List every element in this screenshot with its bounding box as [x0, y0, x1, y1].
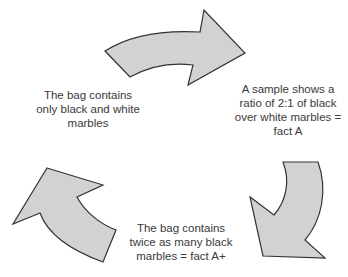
- node-bottom-line-2: twice as many black: [126, 235, 236, 249]
- node-right-line-2: ratio of 2:1 of black: [228, 96, 348, 110]
- top-arrow-icon: [105, 10, 245, 85]
- node-right-line-1: A sample shows a: [228, 82, 348, 96]
- right-arrow-icon: [250, 162, 325, 258]
- node-left-line-3: marbles: [20, 116, 156, 130]
- node-left-label: The bag contains only black and white ma…: [20, 88, 156, 130]
- node-bottom-label: The bag contains twice as many black mar…: [126, 221, 236, 263]
- node-bottom-line-1: The bag contains: [126, 221, 236, 235]
- node-left-line-2: only black and white: [20, 102, 156, 116]
- node-right-line-4: fact A: [228, 124, 348, 138]
- node-right-line-3: over white marbles =: [228, 110, 348, 124]
- node-bottom-line-3: marbles = fact A+: [126, 249, 236, 263]
- node-right-label: A sample shows a ratio of 2:1 of black o…: [228, 82, 348, 138]
- node-left-line-1: The bag contains: [20, 88, 156, 102]
- left-arrow-icon: [13, 168, 116, 262]
